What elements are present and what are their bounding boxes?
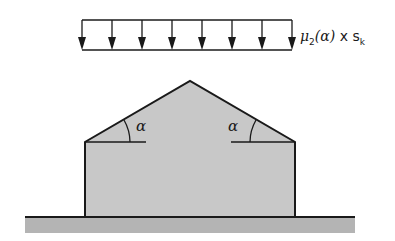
load-arrow-icon [168, 20, 176, 50]
load-label: μ2(α) x sk [300, 28, 365, 47]
load-arrow-icon [138, 20, 146, 50]
load-arrow-icon [288, 20, 296, 50]
load-arrow-icon [198, 20, 206, 50]
snow-load-diagram [78, 20, 296, 50]
house-body [85, 81, 295, 217]
ground-band [25, 217, 355, 233]
load-arrow-icon [258, 20, 266, 50]
load-arrow-icon [78, 20, 86, 50]
load-arrow-icon [108, 20, 116, 50]
angle-label-right: α [228, 117, 238, 135]
load-arrow-icon [228, 20, 236, 50]
angle-label-left: α [136, 117, 146, 135]
